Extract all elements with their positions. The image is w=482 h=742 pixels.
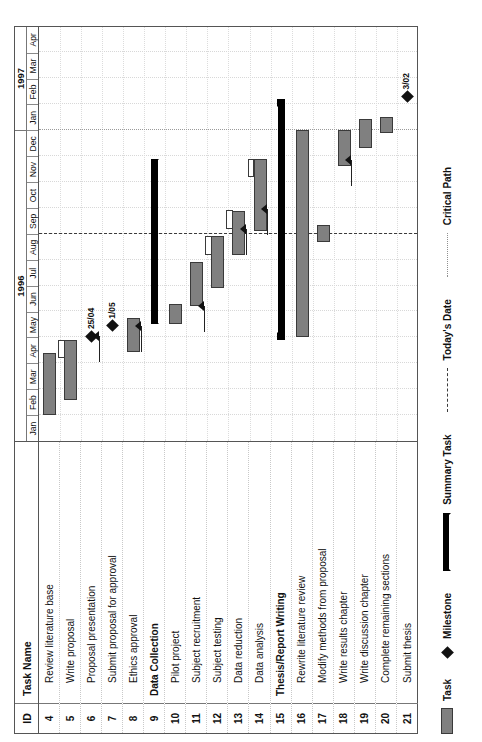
table-row[interactable]: 12Subject testing (207, 442, 228, 733)
timescale-month-13: Feb (27, 79, 38, 105)
gantt-task-bar[interactable] (296, 130, 309, 337)
legend-label-task: Task (442, 679, 453, 701)
gantt-task-bar[interactable] (317, 225, 330, 242)
row-id-cell: 21 (397, 703, 418, 733)
timescale-month-14: Mar (27, 53, 38, 79)
legend-item-milestone: Milestone (442, 593, 453, 679)
grid-row-line (376, 27, 377, 441)
grid-row-line (334, 27, 335, 441)
timescale-month-2: Mar (27, 363, 38, 389)
row-id-cell: 17 (313, 703, 333, 733)
legend-label-summary: Summary Task (442, 434, 453, 504)
dependency-link-line (141, 326, 142, 352)
row-id-cell: 10 (165, 703, 185, 733)
dependency-link-line (267, 209, 268, 235)
timescale-years: 19961997 (15, 27, 27, 441)
gantt-task-slippage-bar (248, 159, 255, 177)
table-row[interactable]: 10Pilot project (165, 442, 186, 733)
row-task-name-cell: Data Collection (144, 442, 164, 703)
grid-row-line (313, 27, 314, 441)
milestone-date-label: 25/04 (86, 308, 96, 329)
grid-row-line (355, 27, 356, 441)
gantt-summary-bar[interactable] (278, 99, 285, 340)
table-row[interactable]: 9Data Collection (144, 442, 165, 733)
timescale-month-5: Jun (27, 286, 38, 312)
gantt-task-bar[interactable] (190, 262, 203, 306)
gantt-summary-bar[interactable] (151, 159, 158, 325)
milestone-date-label: 3/02 (401, 73, 411, 90)
timescale-month-3: Apr (27, 337, 38, 363)
table-row[interactable]: 20Complete remaining sections (376, 442, 397, 733)
table-row[interactable]: 14Data analysis (249, 442, 270, 733)
table-row[interactable]: 19Write discussion chapter (355, 442, 376, 733)
table-row[interactable]: 16Rewrite literature review (292, 442, 313, 733)
gantt-task-bar[interactable] (43, 353, 56, 415)
table-row[interactable]: 5Write proposal (60, 442, 81, 733)
gantt-task-bar[interactable] (254, 159, 267, 232)
grid-row-line (165, 27, 166, 441)
row-task-name-cell: Subject recruitment (186, 442, 206, 703)
gantt-milestone-marker[interactable] (106, 319, 119, 332)
grid-row-line (250, 27, 251, 441)
table-row[interactable]: 8Ethics approval (123, 442, 144, 733)
task-table: ID Task Name 4Review literature base5Wri… (15, 441, 417, 733)
todays-date-line (39, 233, 417, 234)
table-row[interactable]: 13Data reduction (228, 442, 249, 733)
timescale-month-4: May (27, 312, 38, 338)
chart-legend: Task Milestone Summary Task Today's Date… (434, 26, 460, 734)
row-id-cell: 19 (355, 703, 375, 733)
legend-item-summary: Summary Task (440, 434, 454, 592)
table-row[interactable]: 7Submit proposal for approval (102, 442, 123, 733)
grid-row-line (207, 27, 208, 441)
gantt-task-bar[interactable] (380, 117, 393, 133)
table-row[interactable]: 15Thesis/Report Writing (271, 442, 292, 733)
gantt-task-bar[interactable] (169, 304, 182, 325)
row-id-cell: 15 (271, 703, 291, 733)
gantt-milestone-marker[interactable] (401, 90, 414, 103)
timescale-month-6: Jul (27, 260, 38, 286)
grid-row-line (123, 27, 124, 441)
table-row[interactable]: 21Submit thesis (397, 442, 418, 733)
task-swatch-icon (441, 708, 453, 734)
gantt-task-slippage-bar (226, 211, 233, 229)
row-task-name-cell: Write discussion chapter (355, 442, 375, 703)
milestone-date-label: 1/05 (107, 302, 117, 319)
row-id-cell: 4 (39, 703, 59, 733)
column-header-id: ID (15, 703, 38, 733)
row-id-cell: 16 (292, 703, 312, 733)
task-table-body: 4Review literature base5Write proposal6P… (39, 442, 418, 733)
grid-row-line (397, 27, 398, 441)
gantt-chart-page: ID Task Name 4Review literature base5Wri… (0, 0, 482, 742)
row-id-cell: 20 (376, 703, 396, 733)
row-task-name-cell: Submit thesis (397, 442, 418, 703)
table-row[interactable]: 18Write results chapter (334, 442, 355, 733)
legend-item-critical-path: Critical Path (442, 167, 453, 299)
milestone-diamond-icon (441, 646, 454, 659)
table-row[interactable]: 11Subject recruitment (186, 442, 207, 733)
dependency-link-line (351, 160, 352, 186)
table-row[interactable]: 6Proposal presentation (81, 442, 102, 733)
grid-row-line (102, 27, 103, 441)
row-id-cell: 5 (60, 703, 80, 733)
row-task-name-cell: Data analysis (249, 442, 269, 703)
summary-bar-icon (440, 513, 454, 571)
gantt-task-bar[interactable] (359, 119, 372, 149)
timescale-month-8: Sep (27, 208, 38, 234)
timescale-month-15: Apr (27, 27, 38, 53)
timescale-month-9: Oct (27, 182, 38, 208)
row-id-cell: 8 (123, 703, 143, 733)
legend-item-task: Task (441, 679, 453, 734)
table-row[interactable]: 4Review literature base (39, 442, 60, 733)
timescale-month-1: Feb (27, 389, 38, 415)
table-row[interactable]: 17Modify methods from proposal (313, 442, 334, 733)
dependency-arrow-icon (261, 204, 267, 214)
grid-row-line (292, 27, 293, 441)
timescale-month-10: Nov (27, 156, 38, 182)
row-id-cell: 9 (144, 703, 164, 733)
today-line-icon (447, 368, 448, 412)
legend-label-milestone: Milestone (442, 593, 453, 639)
gantt-task-bar[interactable] (64, 340, 77, 400)
timeline-grid: 19961997 JanFebMarAprMayJunJulAugSepOctN… (15, 27, 417, 441)
rotated-page-wrapper: ID Task Name 4Review literature base5Wri… (0, 0, 482, 742)
gantt-task-bar[interactable] (211, 236, 224, 288)
